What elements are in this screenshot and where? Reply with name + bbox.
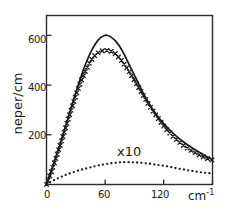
axes-frame xyxy=(47,16,213,185)
chart-figure: neper/cm 600 400 200 0 60 120 cm-1 x10 xyxy=(0,0,230,214)
series-cross-marker-curve xyxy=(45,49,214,187)
x-axis-label: cm-1 xyxy=(188,188,214,203)
x-axis-unit-text: cm xyxy=(188,189,206,203)
x-axis-unit-exponent: -1 xyxy=(206,188,214,197)
y-tick-label-400: 400 xyxy=(28,82,46,93)
data-series-group xyxy=(45,35,214,186)
x-tick-label-120: 120 xyxy=(151,189,169,200)
annotation-x10: x10 xyxy=(117,144,141,159)
y-axis-label: neper/cm xyxy=(10,61,25,147)
y-tick-label-600: 600 xyxy=(28,34,46,45)
plot-canvas xyxy=(0,0,230,214)
y-tick-label-200: 200 xyxy=(28,130,46,141)
x-tick-label-0: 0 xyxy=(44,189,50,200)
series-dotted-curve-x10 xyxy=(45,161,210,186)
x-tick-label-60: 60 xyxy=(98,189,110,200)
